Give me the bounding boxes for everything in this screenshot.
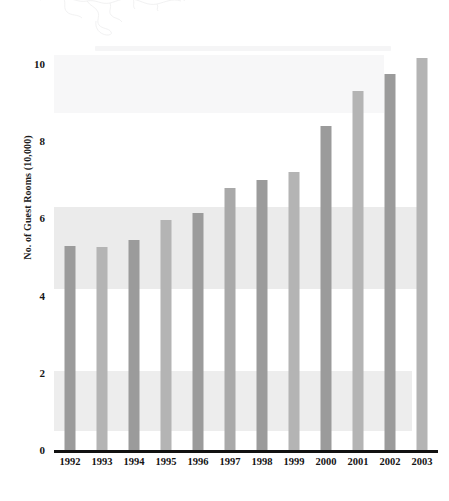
y-axis-label: No. of Guest Rooms (10,000) bbox=[22, 108, 33, 288]
bar-slot bbox=[374, 41, 406, 450]
y-tick-label: 4 bbox=[40, 290, 46, 302]
bar-series bbox=[54, 41, 438, 450]
bar-1992 bbox=[65, 246, 76, 451]
scan-bleedthrough-map-artifact bbox=[38, 0, 188, 36]
bar-slot bbox=[150, 41, 182, 450]
chart-page: No. of Guest Rooms (10,000) 0246810 1992… bbox=[0, 0, 449, 501]
bar-1999 bbox=[289, 172, 300, 450]
x-axis-ticks: 1992199319941995199619971998199920002001… bbox=[54, 456, 438, 478]
y-tick-label: 8 bbox=[40, 135, 46, 147]
y-tick-label: 0 bbox=[40, 444, 46, 456]
bar-slot bbox=[54, 41, 86, 450]
bar-1994 bbox=[129, 240, 140, 450]
bar-1998 bbox=[257, 180, 268, 450]
bar-slot bbox=[118, 41, 150, 450]
bar-slot bbox=[406, 41, 438, 450]
bar-slot bbox=[342, 41, 374, 450]
bar-2003 bbox=[417, 58, 428, 450]
bar-2000 bbox=[321, 126, 332, 450]
bar-slot bbox=[182, 41, 214, 450]
x-axis-line bbox=[54, 450, 438, 453]
bar-2002 bbox=[385, 74, 396, 450]
bar-slot bbox=[246, 41, 278, 450]
bar-slot bbox=[278, 41, 310, 450]
y-tick-label: 6 bbox=[40, 212, 46, 224]
bar-slot bbox=[310, 41, 342, 450]
bar-2001 bbox=[353, 91, 364, 450]
plot-area: 0246810 bbox=[54, 41, 438, 450]
bar-1996 bbox=[193, 213, 204, 450]
x-tick-label: 2003 bbox=[399, 456, 445, 467]
bar-1997 bbox=[225, 188, 236, 450]
bar-1995 bbox=[161, 220, 172, 450]
bar-slot bbox=[86, 41, 118, 450]
y-tick-label: 2 bbox=[40, 367, 46, 379]
bar-slot bbox=[214, 41, 246, 450]
bar-1993 bbox=[97, 247, 108, 450]
y-tick-label: 10 bbox=[34, 58, 45, 70]
